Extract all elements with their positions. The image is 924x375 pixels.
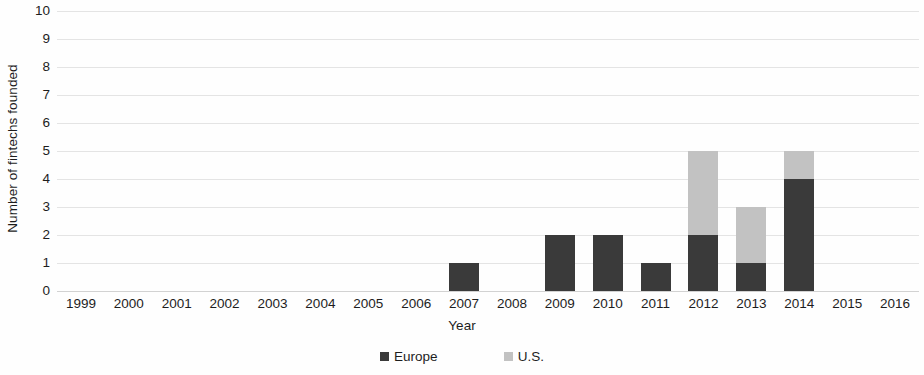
bar-slot [392,11,440,291]
y-axis-tick-label: 6 [4,116,50,130]
bar-segment-europe[interactable] [688,235,718,291]
legend-label: Europe [394,350,438,364]
chart-legend: EuropeU.S. [0,350,924,364]
x-axis-tick-label: 2014 [775,296,823,312]
bar-series-group [57,11,919,291]
legend-swatch-icon [380,352,389,361]
x-axis-tick-label: 2011 [632,296,680,312]
bar-segment-europe[interactable] [784,179,814,291]
x-axis-tick-label: 2005 [344,296,392,312]
stacked-bar[interactable] [784,151,814,291]
bar-slot [440,11,488,291]
x-axis-tick-label: 2012 [680,296,728,312]
x-axis-tick-label: 2010 [584,296,632,312]
bar-segment-europe[interactable] [593,235,623,291]
bar-slot [775,11,823,291]
bar-slot [727,11,775,291]
x-axis-tick-label: 2004 [296,296,344,312]
y-axis-tick-label: 3 [4,200,50,214]
stacked-bar[interactable] [688,151,718,291]
bar-segment-us[interactable] [688,151,718,235]
y-axis-tick-label: 8 [4,60,50,74]
x-axis-tick-label: 2015 [823,296,871,312]
bar-slot [57,11,105,291]
bar-segment-us[interactable] [784,151,814,179]
x-axis-tick-label: 2002 [201,296,249,312]
bar-segment-europe[interactable] [641,263,671,291]
x-axis-tick-label: 2007 [440,296,488,312]
x-axis-title-text: Year [448,318,475,333]
legend-entry[interactable]: Europe [380,350,438,364]
bar-segment-europe[interactable] [736,263,766,291]
y-axis-tick-label: 4 [4,172,50,186]
stacked-bar[interactable] [449,263,479,291]
x-axis-tick-label: 2001 [153,296,201,312]
bar-slot [823,11,871,291]
bar-slot [296,11,344,291]
y-axis-tick-label: 1 [4,256,50,270]
y-axis-tick-label: 0 [4,284,50,298]
bar-segment-europe[interactable] [545,235,575,291]
x-axis-tick-label: 1999 [57,296,105,312]
legend-entry[interactable]: U.S. [504,350,544,364]
stacked-bar-chart: Number of fintechs founded 109876543210 … [0,0,924,375]
y-axis-tick-label: 9 [4,32,50,46]
y-axis-tick-label: 5 [4,144,50,158]
bar-segment-us[interactable] [736,207,766,263]
legend-label: U.S. [518,350,544,364]
bar-slot [680,11,728,291]
y-axis-tick-label: 2 [4,228,50,242]
bar-slot [488,11,536,291]
x-axis-tick-label: 2000 [105,296,153,312]
bar-slot [153,11,201,291]
bar-slot [584,11,632,291]
y-axis-tick-label: 7 [4,88,50,102]
stacked-bar[interactable] [545,235,575,291]
x-axis-tick-label: 2008 [488,296,536,312]
bar-slot [105,11,153,291]
x-axis-tick-label: 2009 [536,296,584,312]
gridline [57,291,919,292]
x-axis-tick-label: 2013 [727,296,775,312]
x-axis-tick-label: 2006 [392,296,440,312]
y-axis-tick-labels: 109876543210 [0,0,50,302]
bar-slot [871,11,919,291]
x-axis-tick-label: 2003 [249,296,297,312]
x-axis-title: Year [0,318,924,333]
y-axis-tick-label: 10 [4,4,50,18]
x-axis-tick-labels: 1999200020012002200320042005200620072008… [57,296,919,316]
plot-area [57,11,919,291]
legend-swatch-icon [504,352,513,361]
bar-slot [632,11,680,291]
bar-segment-europe[interactable] [449,263,479,291]
stacked-bar[interactable] [641,263,671,291]
x-axis-tick-label: 2016 [871,296,919,312]
stacked-bar[interactable] [593,235,623,291]
bar-slot [344,11,392,291]
bar-slot [536,11,584,291]
bar-slot [249,11,297,291]
stacked-bar[interactable] [736,207,766,291]
bar-slot [201,11,249,291]
